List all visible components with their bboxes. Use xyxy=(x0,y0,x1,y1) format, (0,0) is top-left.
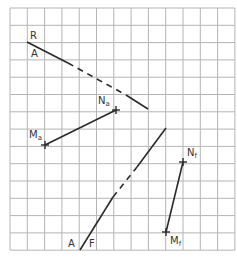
label-mf: Mf xyxy=(170,235,182,248)
segment-ma-na xyxy=(45,110,116,145)
label-nf: Nf xyxy=(187,147,197,160)
label-a-bottom: A xyxy=(68,238,75,249)
label-nf-sub: f xyxy=(194,152,197,160)
point-na-mark xyxy=(112,106,120,114)
label-r: R xyxy=(30,30,37,41)
descriptive-geometry-diagram: R A Na Ma Nf Mf A F xyxy=(0,0,237,258)
trace-af-solid-end xyxy=(137,128,166,167)
trace-line-ra xyxy=(27,42,148,109)
trace-ra-solid-end xyxy=(126,95,148,109)
segment-mf-nf xyxy=(166,162,183,232)
label-na: Na xyxy=(98,95,110,108)
label-mf-main: M xyxy=(170,235,179,246)
label-na-main: N xyxy=(98,95,105,106)
point-ma-mark xyxy=(41,141,49,149)
trace-af-dashed xyxy=(113,167,137,197)
label-nf-main: N xyxy=(187,147,194,158)
label-ma-main: M xyxy=(29,129,38,140)
point-nf-mark xyxy=(179,158,187,166)
label-f: F xyxy=(89,238,95,249)
label-na-sub: a xyxy=(105,100,109,108)
label-ma: Ma xyxy=(29,129,42,142)
point-mf-mark xyxy=(162,228,170,236)
label-a-top: A xyxy=(31,48,38,59)
grid xyxy=(10,8,235,250)
label-mf-sub: f xyxy=(179,240,182,248)
label-ma-sub: a xyxy=(38,134,42,142)
